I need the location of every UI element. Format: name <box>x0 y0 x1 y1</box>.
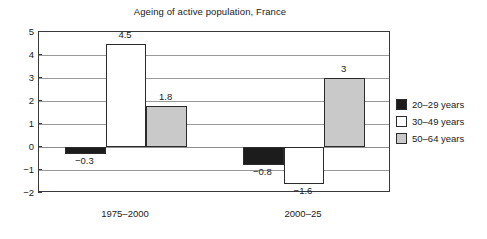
legend-item[interactable]: 20–29 years <box>396 96 464 112</box>
chart-legend: 20–29 years30–49 years50–64 years <box>396 96 464 147</box>
bar[interactable] <box>284 147 325 184</box>
y-tick-label: 1 <box>8 118 34 129</box>
bar[interactable] <box>106 44 147 148</box>
bar-value-label: 4.5 <box>118 29 131 40</box>
y-tick-label: 5 <box>8 26 34 37</box>
y-axis: 543210−1−2 <box>0 0 34 239</box>
x-tick-label: 2000–25 <box>285 208 322 219</box>
bar-value-label: 1.8 <box>159 91 172 102</box>
legend-swatch-white <box>396 116 407 127</box>
y-tick-mark <box>38 31 42 32</box>
plot-area <box>38 31 390 192</box>
bar-value-label: −0.8 <box>253 166 272 177</box>
bar[interactable] <box>146 106 187 147</box>
gridline <box>39 55 389 56</box>
y-tick-label: −2 <box>8 187 34 198</box>
bar[interactable] <box>324 78 365 147</box>
bar-value-label: 3 <box>341 63 346 74</box>
y-tick-mark <box>38 100 42 101</box>
y-tick-label: 0 <box>8 141 34 152</box>
gridline <box>39 170 389 171</box>
bar-value-label: −1.6 <box>294 185 313 196</box>
y-tick-mark <box>38 192 42 193</box>
legend-swatch-grey <box>396 133 407 144</box>
x-tick-label: 1975–2000 <box>101 208 149 219</box>
y-tick-mark <box>38 169 42 170</box>
legend-item[interactable]: 30–49 years <box>396 113 464 129</box>
bar-value-label: −0.3 <box>75 155 94 166</box>
legend-item[interactable]: 50–64 years <box>396 130 464 146</box>
y-tick-label: −1 <box>8 164 34 175</box>
y-tick-mark <box>38 54 42 55</box>
y-tick-label: 2 <box>8 95 34 106</box>
y-tick-mark <box>38 77 42 78</box>
bar[interactable] <box>65 147 106 154</box>
y-tick-mark <box>38 146 42 147</box>
legend-label: 20–29 years <box>412 99 464 110</box>
legend-swatch-black <box>396 99 407 110</box>
chart-figure: Ageing of active population, France 5432… <box>0 0 487 239</box>
bar[interactable] <box>243 147 284 165</box>
chart-title: Ageing of active population, France <box>0 6 420 17</box>
legend-label: 30–49 years <box>412 116 464 127</box>
y-tick-mark <box>38 123 42 124</box>
y-tick-label: 4 <box>8 49 34 60</box>
legend-label: 50–64 years <box>412 133 464 144</box>
y-tick-label: 3 <box>8 72 34 83</box>
